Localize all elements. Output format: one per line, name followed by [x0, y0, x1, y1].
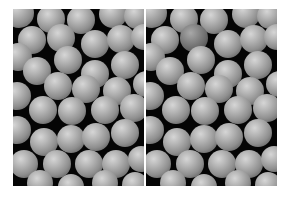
sphere	[261, 146, 277, 172]
sphere	[57, 125, 85, 153]
sphere	[146, 116, 164, 144]
sphere	[44, 72, 72, 100]
sphere	[111, 51, 139, 79]
sphere	[54, 46, 82, 74]
sphere	[224, 96, 252, 124]
sphere	[13, 82, 31, 110]
sphere	[244, 51, 272, 79]
sphere	[190, 125, 218, 153]
sphere	[128, 146, 144, 172]
sphere	[214, 30, 242, 58]
sphere	[58, 97, 86, 125]
sphere	[162, 96, 190, 124]
sphere-packing-panel-right	[146, 9, 277, 186]
sphere	[120, 94, 144, 122]
sphere	[111, 119, 139, 147]
sphere	[177, 72, 205, 100]
sphere	[244, 119, 272, 147]
sphere	[82, 123, 110, 151]
sphere	[13, 116, 31, 144]
sphere	[187, 46, 215, 74]
sphere	[191, 97, 219, 125]
sphere	[29, 96, 57, 124]
sphere	[146, 82, 164, 110]
sphere	[253, 94, 277, 122]
sphere-packing-panel-left	[13, 9, 144, 186]
sphere	[81, 30, 109, 58]
sphere	[91, 96, 119, 124]
sphere	[215, 123, 243, 151]
